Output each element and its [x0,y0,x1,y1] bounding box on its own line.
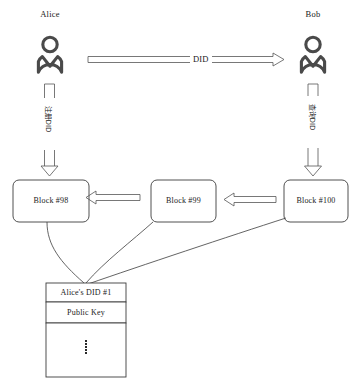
diagram-canvas: Alice Bob DID 注册DID 查询DID Block #98 Bloc… [0,0,362,390]
did-document-row-2-text: Public Key [46,308,126,317]
block-label-100: Block #100 [284,196,348,205]
person-icon-alice [38,37,61,72]
curve-block99-to-document [86,222,153,283]
did-flow-arrow [88,53,284,66]
block-label-99: Block #99 [151,196,216,205]
curve-block100-to-document [88,218,286,284]
person-icon-bob [301,37,324,72]
chain-arrow-99-to-98 [86,191,140,204]
chain-arrow-100-to-99 [224,193,276,206]
register-did-label: 注册DID [42,98,56,140]
actor-name-alice: Alice [15,9,85,19]
curve-block98-to-document [47,222,84,283]
actor-name-bob: Bob [278,9,348,19]
vertical-ellipsis-icon [85,340,87,354]
block-label-98: Block #98 [13,196,89,205]
did-flow-label: DID [190,54,212,64]
did-document-table [46,283,126,377]
query-did-label: 查询DID [306,96,320,138]
diagram-vector-layer [0,0,362,390]
did-document-row-1-text: Alice's DID #1 [46,288,126,297]
